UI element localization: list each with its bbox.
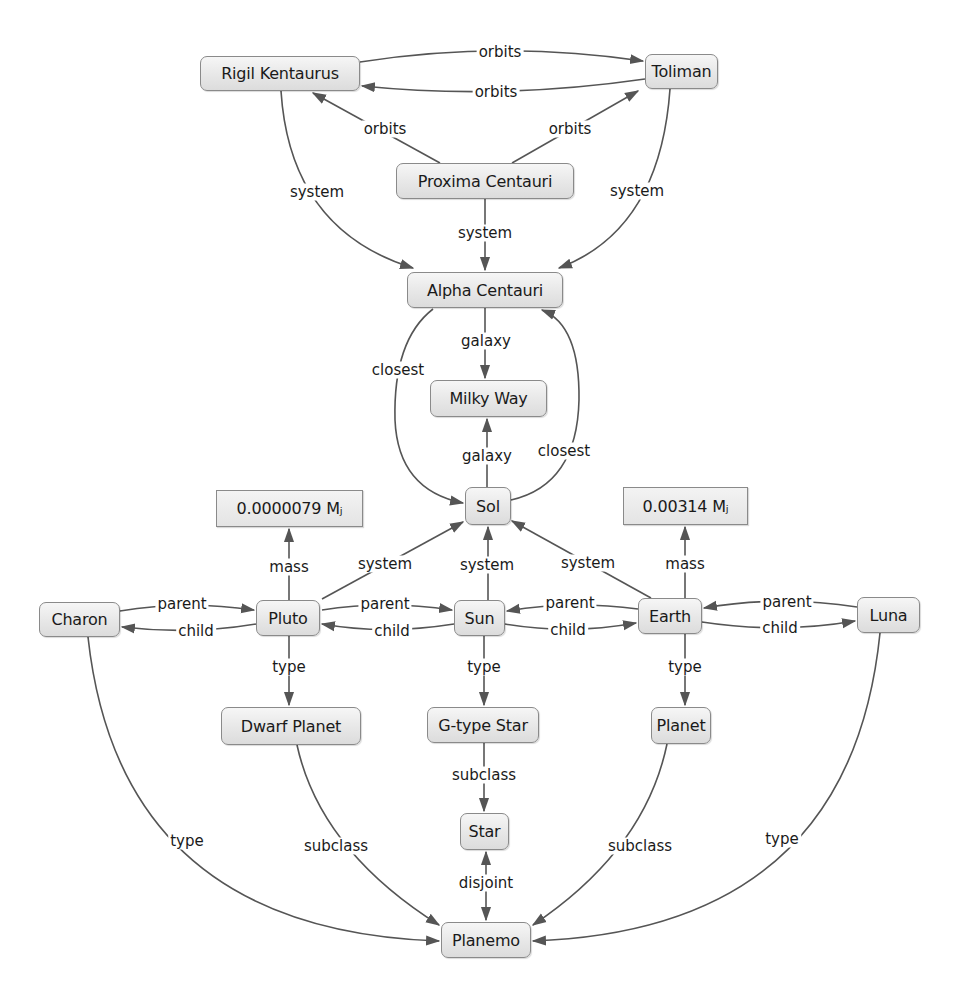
node-label: Luna (870, 606, 908, 625)
node-label: Alpha Centauri (427, 281, 543, 300)
edge-luna-type-planemo (533, 633, 880, 941)
node-earth[interactable]: Earth (638, 598, 702, 634)
node-label: Sol (476, 497, 500, 516)
edge-label-type: type (465, 659, 503, 676)
edge-charon-type-planemo (88, 637, 439, 941)
edge-label-subclass: subclass (606, 838, 674, 855)
edge-label-parent: parent (155, 596, 208, 613)
edge-label-galaxy: galaxy (459, 333, 513, 350)
edge-label-orbits: orbits (477, 44, 524, 61)
node-rigil[interactable]: Rigil Kentaurus (200, 56, 360, 91)
edge-label-closest: closest (536, 443, 592, 460)
edge-label-child: child (372, 623, 412, 640)
node-label: Toliman (652, 62, 712, 81)
node-milkyway[interactable]: Milky Way (430, 380, 547, 417)
edge-planet-subclass-planemo (533, 744, 667, 925)
edge-label-galaxy: galaxy (460, 448, 514, 465)
node-sun[interactable]: Sun (454, 600, 505, 636)
edge-label-subclass: subclass (302, 838, 370, 855)
node-label: Charon (51, 610, 107, 629)
node-label: Planet (657, 716, 706, 735)
node-mass_earth[interactable]: 0.00314 Mⱼ (623, 487, 748, 525)
edge-label-orbits: orbits (362, 121, 409, 138)
edge-label-type: type (666, 659, 704, 676)
edge-dwarf-subclass-planemo (297, 745, 439, 925)
edge-label-subclass: subclass (450, 767, 518, 784)
edge-label-child: child (176, 623, 216, 640)
edge-label-orbits: orbits (473, 84, 520, 101)
node-gtype[interactable]: G-type Star (427, 707, 539, 743)
node-label: G-type Star (438, 716, 528, 735)
node-label: Rigil Kentaurus (221, 64, 339, 83)
edge-toliman-system-alpha (559, 89, 670, 268)
edge-label-type: type (763, 831, 801, 848)
node-star[interactable]: Star (460, 813, 509, 850)
node-toliman[interactable]: Toliman (645, 54, 718, 89)
node-label: Dwarf Planet (241, 717, 341, 736)
edge-rigil-system-alpha (281, 91, 413, 268)
edge-label-disjoint: disjoint (457, 875, 515, 892)
node-sol[interactable]: Sol (465, 487, 511, 525)
edge-label-closest: closest (370, 362, 426, 379)
edge-label-mass: mass (267, 559, 310, 576)
node-label: Sun (465, 609, 495, 628)
node-mass_pluto[interactable]: 0.0000079 Mⱼ (216, 490, 363, 527)
node-charon[interactable]: Charon (39, 602, 120, 637)
edge-label-child: child (760, 620, 800, 637)
edge-label-mass: mass (663, 556, 706, 573)
edge-label-orbits: orbits (547, 121, 594, 138)
node-label: Planemo (452, 931, 520, 950)
node-dwarf[interactable]: Dwarf Planet (221, 707, 361, 745)
edge-label-system: system (356, 556, 414, 573)
node-label: Milky Way (449, 389, 527, 408)
edge-label-system: system (288, 184, 346, 201)
edge-label-parent: parent (358, 596, 411, 613)
node-luna[interactable]: Luna (857, 597, 920, 633)
node-planet[interactable]: Planet (651, 707, 711, 744)
edge-label-system: system (458, 557, 516, 574)
node-label: Earth (649, 607, 691, 626)
node-label: Star (468, 822, 500, 841)
node-pluto[interactable]: Pluto (256, 600, 320, 636)
edge-label-parent: parent (760, 594, 813, 611)
edge-label-system: system (456, 225, 514, 242)
node-alpha[interactable]: Alpha Centauri (407, 272, 563, 308)
edge-label-parent: parent (543, 595, 596, 612)
node-label: 0.00314 Mⱼ (643, 497, 729, 516)
edge-label-system: system (559, 555, 617, 572)
edge-label-child: child (548, 622, 588, 639)
edge-label-type: type (270, 659, 308, 676)
node-label: Pluto (268, 609, 307, 628)
node-proxima[interactable]: Proxima Centauri (396, 163, 574, 199)
node-label: Proxima Centauri (418, 172, 552, 191)
node-label: 0.0000079 Mⱼ (237, 499, 343, 518)
node-planemo[interactable]: Planemo (441, 922, 531, 958)
edge-label-system: system (608, 183, 666, 200)
edge-label-type: type (168, 833, 206, 850)
